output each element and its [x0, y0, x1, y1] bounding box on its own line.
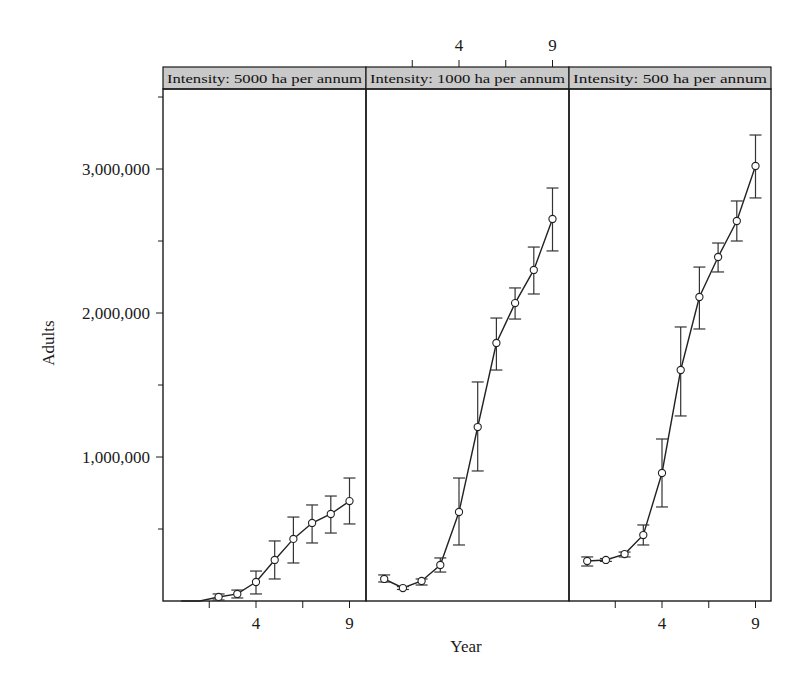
y-axis: 1,000,0002,000,0003,000,000 — [82, 97, 163, 529]
data-point — [640, 531, 647, 538]
data-point — [715, 253, 722, 260]
x-tick-label: 4 — [455, 36, 464, 55]
data-point — [399, 584, 406, 591]
data-point — [511, 299, 518, 306]
panel-3: Intensity: 500 ha per annum49 — [569, 67, 771, 633]
x-tick-label: 9 — [751, 614, 760, 633]
data-point — [584, 557, 591, 564]
data-point — [309, 519, 316, 526]
data-point — [696, 293, 703, 300]
panel-strip-label: Intensity: 500 ha per annum — [573, 72, 767, 86]
x-tick-label: 9 — [548, 36, 557, 55]
x-tick-label: 9 — [345, 614, 354, 633]
data-point — [530, 266, 537, 273]
panel-1: Intensity: 5000 ha per annum49 — [163, 67, 366, 633]
data-point — [346, 497, 353, 504]
series-line — [587, 166, 755, 561]
data-point — [437, 561, 444, 568]
panel-strip-label: Intensity: 5000 ha per annum — [167, 72, 362, 86]
data-point — [215, 593, 222, 600]
y-axis-title: Adults — [39, 320, 58, 365]
x-tick-label: 4 — [252, 614, 261, 633]
series-line — [384, 219, 552, 588]
data-point — [493, 339, 500, 346]
data-point — [733, 217, 740, 224]
panel-2: Intensity: 1000 ha per annum49 — [366, 36, 569, 601]
data-point — [658, 469, 665, 476]
data-point — [290, 535, 297, 542]
data-point — [621, 550, 628, 557]
chart-panels: Intensity: 5000 ha per annum49Intensity:… — [163, 36, 771, 633]
panel-strip-label: Intensity: 1000 ha per annum — [370, 72, 565, 86]
series-line — [181, 501, 349, 601]
data-point — [418, 577, 425, 584]
data-point — [234, 590, 241, 597]
faceted-line-chart: Intensity: 5000 ha per annum49Intensity:… — [0, 0, 807, 680]
data-point — [381, 575, 388, 582]
panel-frame — [163, 89, 366, 601]
x-tick-label: 4 — [658, 614, 667, 633]
data-point — [455, 508, 462, 515]
data-point — [327, 510, 334, 517]
data-point — [602, 556, 609, 563]
y-tick-label: 1,000,000 — [82, 448, 150, 467]
panel-frame — [366, 89, 569, 601]
y-tick-label: 2,000,000 — [82, 304, 150, 323]
x-axis-title: Year — [450, 637, 482, 656]
data-point — [677, 366, 684, 373]
data-point — [474, 423, 481, 430]
data-point — [271, 556, 278, 563]
panel-frame — [569, 89, 771, 601]
data-point — [252, 578, 259, 585]
data-point — [549, 215, 556, 222]
data-point — [752, 162, 759, 169]
y-tick-label: 3,000,000 — [82, 160, 150, 179]
